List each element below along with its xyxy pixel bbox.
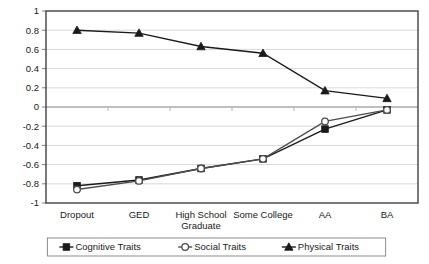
y-axis-tick-label: 0 bbox=[34, 101, 39, 112]
x-axis-category-labels: DropoutGEDHigh SchoolGraduateSome Colleg… bbox=[60, 209, 394, 231]
legend-label: Social Traits bbox=[194, 241, 246, 252]
data-point bbox=[136, 178, 143, 185]
y-axis-tick-label: -0.6 bbox=[23, 159, 39, 170]
y-axis-tick-label: 0.4 bbox=[26, 63, 39, 74]
x-axis-category-label: Some College bbox=[233, 209, 293, 220]
legend-items: Cognitive TraitsSocial TraitsPhysical Tr… bbox=[59, 241, 359, 252]
x-axis-category-label: AA bbox=[319, 209, 332, 220]
y-axis-tick-labels: 10.80.60.40.20-0.2-0.4-0.6-0.8-1 bbox=[23, 5, 39, 208]
y-axis-tick-label: 0.2 bbox=[26, 82, 39, 93]
y-axis-tick-label: -0.8 bbox=[23, 178, 39, 189]
chart-canvas: 10.80.60.40.20-0.2-0.4-0.6-0.8-1 Dropout… bbox=[0, 0, 429, 264]
data-point bbox=[322, 126, 329, 133]
legend-marker-icon bbox=[63, 244, 70, 251]
x-axis-category-label: Dropout bbox=[60, 209, 94, 220]
y-axis-tick-label: 1 bbox=[34, 5, 39, 16]
data-point bbox=[322, 118, 329, 125]
legend-marker-icon bbox=[182, 244, 189, 251]
x-axis-category-label: High School bbox=[175, 209, 226, 220]
y-axis-tick-label: -0.4 bbox=[23, 140, 39, 151]
legend-label: Physical Traits bbox=[298, 241, 359, 252]
x-axis-category-label: Graduate bbox=[181, 220, 221, 231]
y-axis-tick-label: 0.8 bbox=[26, 25, 39, 36]
data-point bbox=[260, 156, 267, 163]
x-axis-category-label: GED bbox=[129, 209, 150, 220]
data-point bbox=[74, 186, 81, 193]
y-axis-tick-label: -0.2 bbox=[23, 121, 39, 132]
data-point bbox=[198, 165, 205, 172]
data-point bbox=[384, 107, 391, 114]
y-axis-tick-label: -1 bbox=[31, 197, 39, 208]
legend-label: Cognitive Traits bbox=[75, 241, 141, 252]
x-axis-category-label: BA bbox=[381, 209, 394, 220]
chart-legend: Cognitive TraitsSocial TraitsPhysical Tr… bbox=[47, 238, 385, 256]
y-axis-tick-label: 0.6 bbox=[26, 44, 39, 55]
line-chart: 10.80.60.40.20-0.2-0.4-0.6-0.8-1 Dropout… bbox=[0, 0, 429, 264]
